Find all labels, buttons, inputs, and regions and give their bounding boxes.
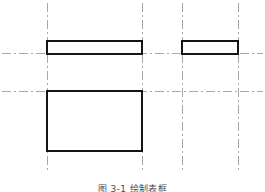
bottom-left-box — [47, 91, 142, 151]
top-right-bar — [182, 41, 238, 54]
figure-caption: 图 3-1 绘制表框 — [0, 184, 265, 192]
engineering-drawing-canvas — [0, 0, 265, 192]
horizontal-center-lines — [2, 54, 263, 92]
top-left-bar — [47, 41, 142, 54]
figure-container: 图 3-1 绘制表框 — [0, 0, 265, 192]
